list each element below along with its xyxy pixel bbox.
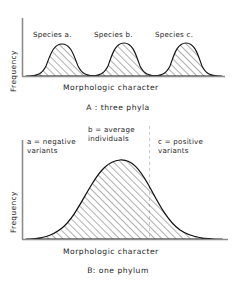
panel-b-annotation-negative-line1: a = negative [27, 137, 76, 146]
panel-b-annotation-positive-line2: variants [158, 146, 203, 155]
panel-b-annotation-average-line1: b = average [88, 125, 135, 134]
curve-species-b [88, 43, 160, 76]
panel-b-annotation-average-line2: individuals [88, 134, 135, 143]
curve-species-c [150, 43, 222, 76]
panel-a-curve-label-species-a: Species a. [33, 30, 72, 39]
curve-species-a [26, 44, 98, 76]
panel-a-three-phyla: Frequency Species a. Species b. Species … [0, 0, 236, 120]
panel-b-curve-group [26, 160, 222, 239]
panel-a-curves [26, 43, 222, 76]
panel-a-plot [0, 0, 236, 120]
panel-a-x-axis-label: Morphologic character [63, 83, 159, 92]
panel-b-one-phylum: Frequency a = negative variants b = aver… [0, 120, 236, 286]
panel-b-caption: B: one phylum [0, 266, 236, 275]
figure-container: Frequency Species a. Species b. Species … [0, 0, 236, 286]
panel-a-curve-label-species-c: Species c. [155, 30, 193, 39]
panel-b-y-axis-label: Frequency [9, 191, 18, 233]
panel-b-annotation-positive-line1: c = positive [158, 137, 203, 146]
panel-a-y-axis-label: Frequency [9, 50, 18, 92]
curve-one-phylum [26, 160, 222, 239]
panel-a-curve-label-species-b: Species b. [94, 30, 133, 39]
panel-b-annotation-average: b = average individuals [88, 125, 135, 143]
panel-a-caption: A : three phyla [0, 103, 236, 112]
panel-b-annotation-negative: a = negative variants [27, 137, 76, 155]
panel-b-annotation-positive: c = positive variants [158, 137, 203, 155]
panel-b-x-axis-label: Morphologic character [63, 247, 159, 256]
panel-b-annotation-negative-line2: variants [27, 146, 76, 155]
